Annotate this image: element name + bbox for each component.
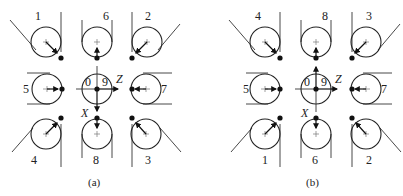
label-a-1: 1: [35, 9, 41, 23]
label-a-0: 0: [85, 75, 91, 89]
position-a-1: 1: [10, 9, 64, 61]
position-b-5: 5: [243, 73, 283, 104]
label-b-3: 3: [366, 9, 372, 23]
label-a-3: 3: [145, 153, 151, 167]
label-b-1: 1: [262, 153, 268, 167]
label-a-6: 6: [103, 9, 109, 23]
position-b-3: 3: [349, 9, 400, 61]
label-a-8: 8: [93, 153, 99, 167]
label-b-2: 2: [366, 153, 372, 167]
position-b-6: 6: [301, 115, 331, 167]
position-a-2: 2: [129, 9, 180, 61]
label-a-5: 5: [23, 82, 29, 96]
axis-label-b-x: X: [300, 106, 309, 120]
label-b-9: 9: [321, 75, 327, 89]
position-b-1: 1: [231, 115, 283, 167]
position-a-7: 7: [129, 73, 172, 104]
position-b-7: 7: [349, 73, 392, 104]
position-a-4: 4: [12, 115, 64, 167]
position-b-4: 4: [229, 9, 283, 61]
label-a-2: 2: [145, 9, 151, 23]
axis-label-a-x: X: [80, 106, 89, 120]
label-a-9: 9: [102, 75, 108, 89]
position-a-5: 5: [23, 73, 65, 104]
label-b-8: 8: [322, 9, 328, 23]
position-b-2: 2: [349, 115, 401, 167]
position-b-8: 8: [301, 9, 331, 61]
caption-b: (b): [306, 176, 319, 189]
position-a-8: 8: [82, 115, 112, 167]
panel-a: 1 6 2 5: [10, 9, 181, 189]
label-b-4: 4: [255, 9, 261, 23]
axis-label-a-z: Z: [116, 72, 123, 86]
panel-b: 4 8 3 5: [229, 9, 401, 189]
label-b-0: 0: [304, 75, 310, 89]
label-b-7: 7: [381, 82, 387, 96]
position-a-6: 6: [82, 9, 112, 61]
axis-label-b-z: Z: [335, 72, 342, 86]
position-a-3: 3: [129, 115, 181, 167]
position-a-center: 0 9 Z X: [76, 66, 123, 120]
tool-position-diagram: 1 6 2 5: [0, 0, 403, 196]
caption-a: (a): [88, 176, 101, 189]
label-a-7: 7: [161, 82, 167, 96]
position-b-center: 0 9 Z X: [295, 67, 342, 120]
label-a-4: 4: [31, 153, 37, 167]
label-b-5: 5: [243, 82, 249, 96]
label-b-6: 6: [312, 153, 318, 167]
